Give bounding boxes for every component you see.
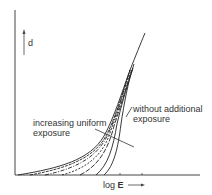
curve-1 (18, 33, 145, 175)
annotation-increasing: increasing uniform exposure (33, 118, 107, 138)
x-axis-label-var: E (118, 180, 124, 190)
curve-family (18, 33, 145, 175)
annotation-without-line1: without additional (133, 104, 203, 114)
annotation-without: without additional exposure (133, 104, 203, 124)
without-exposure-pointer (126, 107, 132, 117)
x-axis-label: log E (103, 180, 124, 190)
arrowhead-icon (141, 184, 145, 187)
x-axis-label-prefix: log (103, 180, 118, 190)
arrowhead-icon (23, 29, 26, 34)
annotation-without-line2: exposure (133, 114, 203, 124)
annotation-increasing-line2: exposure (33, 128, 107, 138)
annotation-increasing-line1: increasing uniform (33, 118, 107, 128)
y-axis-label: d (28, 38, 33, 48)
characteristic-curves-diagram (0, 0, 212, 195)
